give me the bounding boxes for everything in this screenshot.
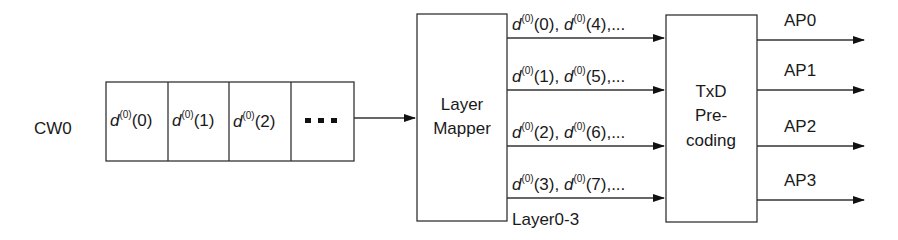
- precoder-label-line3: coding: [686, 131, 736, 150]
- layers-caption: Layer0-3: [512, 210, 579, 229]
- layer-2-label: d(0)(2), d(0)(6),...: [512, 121, 625, 142]
- codeword-cell-0: d(0)(0): [110, 109, 152, 130]
- layer-3-label: d(0)(3), d(0)(7),...: [512, 173, 625, 194]
- layer-mapping-diagram: CW0 d(0)(0) d(0)(1) d(0)(2) Layer Mapper…: [0, 0, 898, 240]
- codeword-label: CW0: [34, 119, 72, 138]
- codeword-cell-1: d(0)(1): [172, 109, 214, 130]
- layer-0-label: d(0)(0), d(0)(4),...: [512, 13, 625, 34]
- antenna-port-0-label: AP0: [784, 11, 816, 30]
- layer-mapper-block: [417, 14, 507, 221]
- layer-1-label: d(0)(1), d(0)(5),...: [512, 65, 625, 86]
- layer-mapper-label-line2: Mapper: [433, 119, 491, 138]
- codeword-block: d(0)(0) d(0)(1) d(0)(2): [106, 82, 354, 161]
- antenna-port-1-label: AP1: [784, 61, 816, 80]
- precoder-label-line1: TxD: [695, 82, 726, 101]
- ellipsis-icon: [305, 118, 337, 123]
- precoder-label-line2: Pre-: [695, 106, 727, 125]
- antenna-port-2-label: AP2: [784, 117, 816, 136]
- layer-outputs: d(0)(0), d(0)(4),...d(0)(1), d(0)(5),...…: [507, 13, 664, 198]
- codeword-cell-2: d(0)(2): [233, 110, 275, 131]
- antenna-port-outputs: AP0AP1AP2AP3: [757, 11, 864, 200]
- layer-mapper-label-line1: Layer: [441, 95, 484, 114]
- antenna-port-3-label: AP3: [784, 171, 816, 190]
